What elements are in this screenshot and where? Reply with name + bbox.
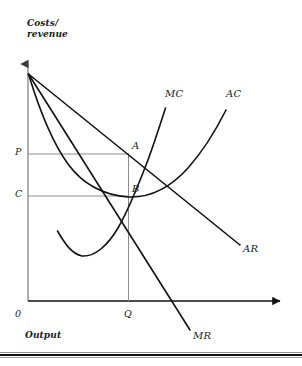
ac-curve-label: AC — [226, 88, 241, 99]
ar-curve — [29, 74, 241, 245]
footer-divider-line-bottom — [0, 357, 302, 358]
quantity-axis-label: Q — [124, 308, 132, 319]
mc-curve — [58, 108, 166, 256]
footer-divider — [0, 352, 302, 358]
mr-curve — [29, 74, 191, 330]
ac-curve — [29, 74, 227, 197]
point-b-label: B — [132, 183, 139, 194]
ar-curve-label: AR — [243, 243, 258, 254]
plot-canvas — [0, 0, 302, 366]
footer-divider-line-main — [0, 354, 302, 356]
y-axis-title: Costs/ revenue — [27, 18, 68, 40]
footer-divider-line-top — [0, 352, 302, 353]
x-axis-title: Output — [25, 330, 61, 341]
mc-curve-label: MC — [165, 88, 183, 99]
mr-curve-label: MR — [193, 330, 211, 341]
origin-label: 0 — [15, 308, 21, 319]
economics-diagram: Costs/ revenue Output 0 P C Q A B MC AC … — [0, 0, 302, 366]
price-axis-label: P — [15, 146, 21, 157]
cost-axis-label: C — [15, 188, 22, 199]
point-a-label: A — [132, 140, 139, 151]
